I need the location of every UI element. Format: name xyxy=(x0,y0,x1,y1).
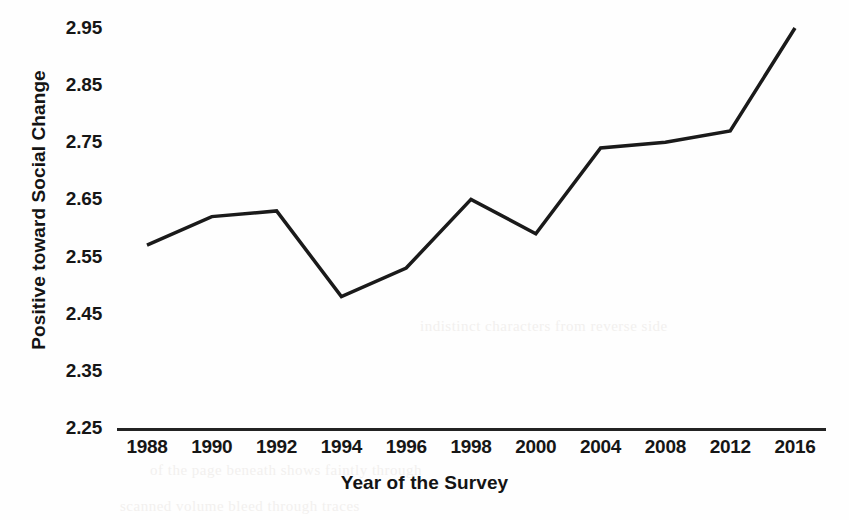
x-axis-tick-label: 1998 xyxy=(450,436,491,458)
x-axis-tick-label: 1996 xyxy=(386,436,427,458)
x-axis-title: Year of the Survey xyxy=(0,472,849,494)
x-axis-tick-label: 1990 xyxy=(191,436,232,458)
x-axis-tick-label: 2000 xyxy=(515,436,556,458)
x-axis-tick-label: 1992 xyxy=(256,436,297,458)
x-axis-line xyxy=(117,428,826,431)
x-axis-tick-label: 1988 xyxy=(126,436,167,458)
x-axis-tick-label: 2008 xyxy=(645,436,686,458)
x-axis-tick-label: 2016 xyxy=(774,436,815,458)
x-axis-tick-label: 2012 xyxy=(710,436,751,458)
x-axis-tick-label: 2004 xyxy=(580,436,621,458)
x-axis-tick-label: 1994 xyxy=(321,436,362,458)
data-series-line xyxy=(147,28,795,297)
chart-figure: of the page beneath shows faintly throug… xyxy=(0,0,849,520)
